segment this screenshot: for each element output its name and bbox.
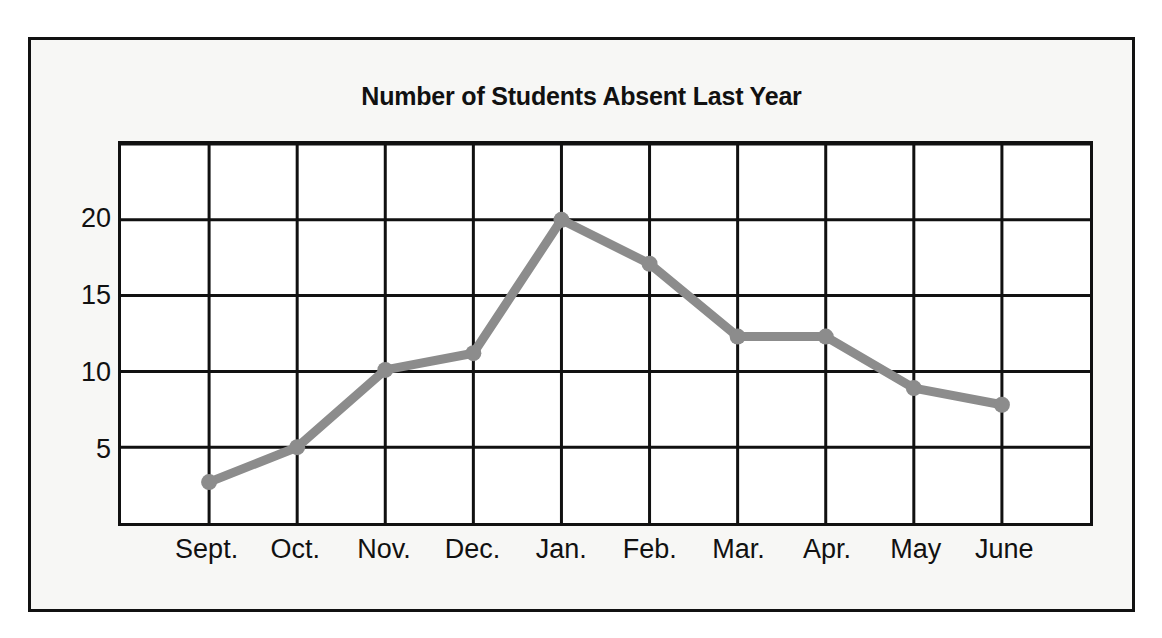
data-point-marker: [289, 439, 305, 455]
data-point-marker: [994, 397, 1010, 413]
y-tick-label: 10: [49, 359, 111, 386]
data-point-marker: [730, 329, 746, 345]
data-point-marker: [818, 329, 834, 345]
y-tick-label: 5: [49, 436, 111, 463]
y-tick-label: 15: [49, 282, 111, 309]
data-point-marker: [201, 474, 217, 490]
y-tick-label: 20: [49, 205, 111, 232]
figure-frame: Number of Students Absent Last Year 20 1…: [28, 37, 1135, 612]
data-point-marker: [377, 362, 393, 378]
y-axis-tick-labels: 20 15 10 5: [39, 141, 111, 526]
series-line: [209, 220, 1002, 482]
data-point-marker: [642, 256, 658, 272]
x-tick-label: June: [949, 536, 1059, 563]
plot-area: [118, 141, 1093, 526]
x-axis-tick-labels: Sept.Oct.Nov.Dec.Jan.Feb.Mar.Apr.MayJune: [118, 536, 1093, 576]
data-point-marker: [906, 380, 922, 396]
data-point-marker: [465, 345, 481, 361]
data-point-marker: [553, 212, 569, 228]
chart-title: Number of Students Absent Last Year: [31, 82, 1132, 111]
line-series: [121, 144, 1090, 523]
